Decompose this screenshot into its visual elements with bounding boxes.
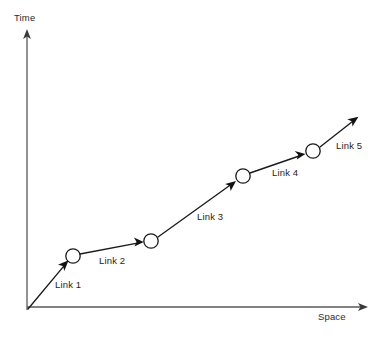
link-3-label: Link 3 [197,211,223,222]
link-3-arrowhead [225,181,236,191]
link-2-arrowhead [134,238,144,247]
link-5-arrowhead [347,117,358,127]
x-axis-label: Space [318,311,346,322]
link-2-arrow [80,238,144,255]
node-circle-2 [144,234,158,248]
node-circle-3 [236,169,250,183]
link-4-label: Link 4 [272,167,298,178]
link-5-label: Link 5 [336,140,362,151]
link-4-arrowhead [295,151,306,160]
axis-group [23,29,368,311]
y-axis-label: Time [14,12,35,23]
node-circle-1 [66,249,80,263]
link-2-line [80,243,137,254]
link-3-arrow [158,181,236,237]
node-circle-4 [306,144,320,158]
diagram-canvas: Time Space Link 1 Link 2 Link 3 Link 4 L… [0,0,381,339]
link-2-label: Link 2 [99,255,125,266]
link-1-arrowhead [58,260,69,271]
link-1-label: Link 1 [55,279,81,290]
